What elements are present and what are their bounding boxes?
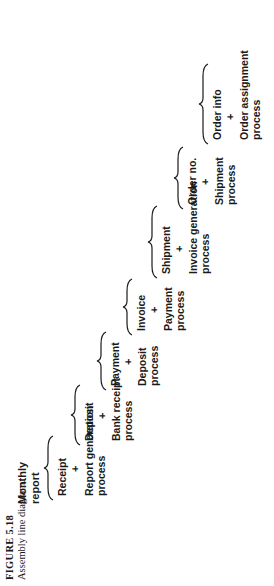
- stage-process: Deposit process: [136, 346, 160, 386]
- diagram-canvas: FIGURE 5.18 Assembly line diagram. Month…: [0, 0, 274, 586]
- brace-icon: [71, 383, 81, 447]
- stage-process: Shipment process: [213, 157, 237, 205]
- brace-icon: [123, 277, 133, 337]
- brace-icon: [174, 145, 184, 211]
- stage-input: Payment: [109, 342, 121, 386]
- stage-invoice: Invoice + Payment process: [123, 277, 183, 337]
- stage-order-no: Order no. + Shipment process: [174, 145, 234, 211]
- plus-operator: +: [69, 466, 81, 472]
- brace-icon: [97, 330, 107, 392]
- brace-icon: [199, 62, 209, 146]
- plus-operator: +: [199, 179, 211, 185]
- stage-payment: Payment + Deposit process: [97, 330, 157, 392]
- plus-operator: +: [96, 413, 108, 419]
- stage-process: Payment process: [162, 287, 186, 331]
- stage-order-info: Order info + Order assignment process: [199, 62, 259, 146]
- stage-shipment: Shipment + Invoice generation process: [148, 204, 208, 280]
- figure-number: FIGURE 5.18: [4, 480, 16, 580]
- brace-icon: [148, 204, 158, 280]
- brace-icon: [44, 434, 54, 502]
- stage-input: Order no.: [186, 158, 198, 205]
- stage-input: Order info: [211, 89, 223, 140]
- plus-operator: +: [122, 359, 134, 365]
- final-output-label: Monthly report: [16, 462, 41, 504]
- plus-operator: +: [224, 114, 236, 120]
- stage-input: Invoice: [135, 295, 147, 331]
- plus-operator: +: [173, 246, 185, 252]
- stage-deposit: Deposit + Bank receipt process: [71, 383, 131, 447]
- stage-process: Order assignment process: [238, 50, 262, 140]
- stage-input: Shipment: [160, 226, 172, 274]
- plus-operator: +: [148, 307, 160, 313]
- stage-input: Receipt: [56, 458, 68, 496]
- stage-input: Deposit: [83, 402, 95, 441]
